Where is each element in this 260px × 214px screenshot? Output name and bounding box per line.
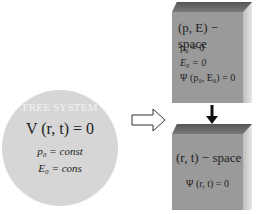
free-system-title: FREE SYSTEM [2, 101, 118, 113]
pE-line-1: p₀ = 0 [180, 42, 243, 53]
box-side-bevel [243, 2, 252, 103]
momentum-condition: p₀ = const [2, 145, 118, 157]
box-side-bevel [243, 124, 252, 210]
energy-condition: E₀ = cons [2, 162, 118, 174]
momentum-energy-space-box: (p, E) − space p₀ = 0 E₀ = 0 Ψ (p₀, E₀) … [172, 2, 252, 103]
solid-down-arrow-icon [206, 105, 218, 125]
rt-line-1: Ψ (r, t) = 0 [186, 178, 243, 189]
hollow-right-arrow-icon [131, 108, 167, 132]
pE-line-2: E₀ = 0 [180, 57, 243, 68]
potential-equation: V (r, t) = 0 [2, 120, 118, 138]
pE-line-3: Ψ (p₀, E₀) = 0 [180, 72, 243, 83]
rt-space-heading: (r, t) − space [176, 150, 243, 166]
box-top-bevel [172, 124, 252, 134]
box-top-bevel [172, 2, 252, 12]
box-face: (p, E) − space p₀ = 0 E₀ = 0 Ψ (p₀, E₀) … [172, 12, 243, 103]
box-face: (r, t) − space Ψ (r, t) = 0 [172, 134, 243, 210]
free-system-circle: FREE SYSTEM V (r, t) = 0 p₀ = const E₀ =… [2, 90, 118, 206]
position-time-space-box: (r, t) − space Ψ (r, t) = 0 [172, 124, 252, 210]
